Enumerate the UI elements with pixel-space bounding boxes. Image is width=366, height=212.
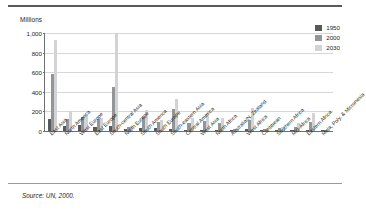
top-divider-rule — [8, 5, 342, 7]
chart-legend: 195020002030 — [315, 24, 340, 51]
bottom-divider-rule — [8, 183, 342, 184]
bar-group — [45, 33, 60, 131]
y-axis-tick-label: 200 — [32, 108, 42, 115]
legend-label: 2000 — [326, 34, 340, 41]
y-axis-tick-label: 600 — [32, 69, 42, 76]
y-axis-tick-label: 0 — [39, 128, 42, 135]
legend-swatch-icon — [315, 35, 322, 41]
y-axis-tick-label: 800 — [32, 49, 42, 56]
source-note: Source: UN, 2000. — [22, 192, 75, 199]
legend-label: 2030 — [326, 44, 340, 51]
y-axis-title: Millions — [20, 16, 42, 23]
y-axis-tick-mark — [43, 131, 45, 132]
legend-item: 2000 — [315, 34, 340, 41]
bar-2030 — [54, 40, 57, 131]
legend-label: 1950 — [326, 24, 340, 31]
legend-item: 1950 — [315, 24, 340, 31]
x-axis-labels: East AsiaNorth AmericaWest EuropeEast Eu… — [44, 133, 332, 183]
legend-item: 2030 — [315, 44, 340, 51]
y-axis-tick-label: 1,000 — [27, 30, 42, 37]
legend-swatch-icon — [315, 25, 322, 31]
legend-swatch-icon — [315, 45, 322, 51]
y-axis-tick-label: 400 — [32, 88, 42, 95]
